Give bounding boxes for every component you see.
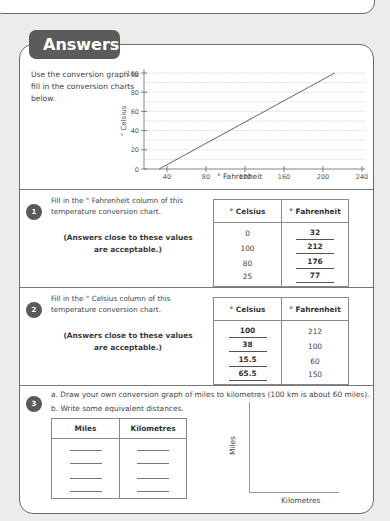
svg-text:0: 0: [135, 166, 139, 174]
celsius-answer: 100: [229, 326, 267, 338]
svg-text:240: 240: [356, 173, 368, 181]
miles-input-line[interactable]: [70, 456, 102, 464]
conversion-graph: 100 80 60 40 20 0 40 80 120 160 200 240 …: [120, 65, 370, 185]
question-2-section: 2 Fill in the ° Celsius column of this t…: [20, 287, 373, 385]
kilometres-axis-label: Kilometres: [281, 496, 320, 505]
svg-text:100: 100: [127, 70, 139, 78]
question-1-note: (Answers close to these values are accep…: [58, 232, 198, 256]
question-3-number: 3: [26, 396, 42, 412]
previous-page-card: [0, 0, 375, 14]
fahrenheit-value: 150: [282, 369, 349, 385]
fahrenheit-answer: 212: [296, 242, 334, 254]
celsius-value: 80: [214, 256, 282, 271]
table-row: [52, 439, 187, 454]
answers-card: Use the conversion graph to fill in the …: [19, 44, 374, 514]
fahrenheit-value: 60: [282, 354, 349, 369]
svg-text:80: 80: [131, 89, 139, 97]
celsius-header: ° Celsius: [214, 200, 282, 223]
celsius-answer: 65.5: [229, 369, 267, 381]
miles-input-line[interactable]: [70, 443, 102, 451]
fahrenheit-answer: 32: [296, 228, 334, 240]
svg-text:80: 80: [202, 173, 210, 181]
question-1-text: Fill in the ° Fahrenheit column of this …: [51, 195, 211, 217]
kilometres-input-line[interactable]: [137, 471, 169, 479]
svg-text:° Celsius: ° Celsius: [120, 105, 128, 136]
question-3-part-b: b. Write some equivalent distances.: [51, 403, 251, 414]
table-row: 80 176: [214, 256, 349, 271]
celsius-value: 25: [214, 271, 282, 287]
miles-header: Miles: [52, 419, 120, 439]
svg-text:40: 40: [163, 173, 171, 181]
question-2-table: ° Celsius ° Fahrenheit 100 212 38 100 15…: [213, 297, 349, 385]
svg-text:40: 40: [131, 127, 139, 135]
answers-heading: Answers: [29, 30, 120, 59]
table-row: [52, 469, 187, 484]
table-row: [52, 484, 187, 499]
table-row: 15.5 60: [214, 354, 349, 369]
celsius-answer: 15.5: [229, 355, 267, 367]
question-3-part-a: a. Draw your own conversion graph of mil…: [51, 389, 374, 400]
question-2-note: (Answers close to these values are accep…: [58, 330, 198, 354]
miles-axis-label: Miles: [228, 436, 237, 455]
celsius-header: ° Celsius: [214, 298, 282, 321]
table-row: 38 100: [214, 339, 349, 354]
svg-text:200: 200: [317, 173, 329, 181]
table-row: 65.5 150: [214, 369, 349, 385]
fahrenheit-header: ° Fahrenheit: [282, 200, 349, 223]
miles-input-line[interactable]: [70, 484, 102, 492]
table-row: [52, 454, 187, 469]
kilometres-input-line[interactable]: [137, 443, 169, 451]
table-row: 100 212: [214, 321, 349, 339]
kilometres-input-line[interactable]: [137, 484, 169, 492]
fahrenheit-answer: 176: [296, 257, 334, 269]
fahrenheit-answer: 77: [296, 271, 334, 283]
svg-text:160: 160: [278, 173, 290, 181]
fahrenheit-header: ° Fahrenheit: [282, 298, 349, 321]
fahrenheit-value: 212: [282, 321, 349, 339]
table-row: 100 212: [214, 241, 349, 256]
question-1-section: 1 Fill in the ° Fahrenheit column of thi…: [20, 189, 373, 287]
question-1-number: 1: [26, 204, 42, 220]
miles-input-line[interactable]: [70, 471, 102, 479]
question-1-table: ° Celsius ° Fahrenheit 0 32 100 212 80 1…: [213, 199, 349, 287]
blank-graph-area[interactable]: [249, 402, 339, 493]
x-axis-label: ° Fahrenheit: [217, 172, 262, 181]
question-3-section: 3 a. Draw your own conversion graph of m…: [20, 385, 373, 514]
miles-km-table: Miles Kilometres: [51, 418, 187, 499]
table-row: 0 32: [214, 223, 349, 241]
fahrenheit-value: 100: [282, 339, 349, 354]
question-2-number: 2: [26, 302, 42, 318]
celsius-value: 0: [214, 223, 282, 241]
svg-text:60: 60: [131, 108, 139, 116]
kilometres-input-line[interactable]: [137, 456, 169, 464]
celsius-value: 100: [214, 241, 282, 256]
table-row: 25 77: [214, 271, 349, 287]
question-2-text: Fill in the ° Celsius column of this tem…: [51, 293, 211, 315]
celsius-answer: 38: [229, 340, 267, 352]
svg-text:20: 20: [131, 146, 139, 154]
kilometres-header: Kilometres: [120, 419, 187, 439]
